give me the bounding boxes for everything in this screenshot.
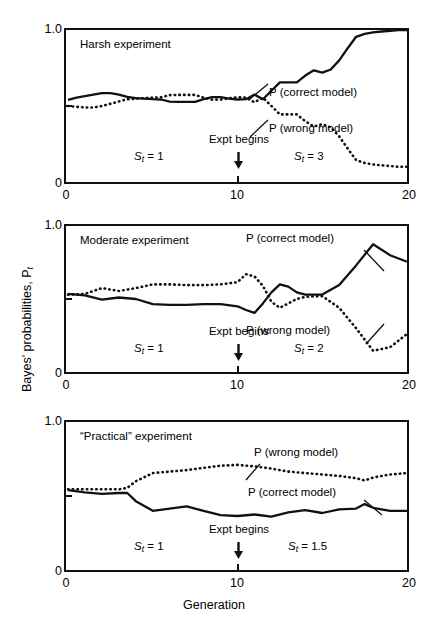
panel-practical-title: “Practical” experiment [80, 430, 192, 442]
panel-practical-regime-before-subscript: t [142, 544, 144, 554]
panel-harsh-y-tick-top: 1.0 [28, 22, 62, 36]
panel-moderate-leader-correct [362, 248, 390, 274]
panel-moderate-regime-after-value: = 2 [307, 342, 323, 354]
panel-practical-expt-begins-label: Expt begins [179, 523, 299, 535]
panel-harsh-regime-before-symbol: S [134, 150, 142, 162]
panel-moderate-legend-correct: P (correct model) [246, 232, 334, 244]
panel-moderate-leader-wrong [364, 322, 390, 348]
panel-moderate-regime-before: St = 1 [134, 342, 164, 356]
panel-practical-y-tick-top: 1.0 [28, 414, 62, 428]
panel-moderate-x-tick-20: 20 [394, 378, 424, 392]
x-axis-title: Generation [0, 598, 428, 612]
panel-moderate-regime-after-subscript: t [302, 346, 304, 356]
panel-moderate-expt-begins-label: Expt begins [179, 325, 299, 337]
panel-practical-legend-wrong: P (wrong model) [254, 446, 338, 458]
panel-harsh-regime-before: St = 1 [134, 150, 164, 164]
panel-practical-series-correct [68, 490, 407, 517]
y-axis-title-subscript: t [25, 267, 35, 269]
panel-harsh-x-tick-10: 10 [222, 188, 252, 202]
panel-practical-leader-correct [362, 498, 388, 520]
panel-moderate-series-correct [68, 244, 407, 313]
panel-harsh-regime-after-symbol: S [294, 150, 302, 162]
panel-harsh-x-tick-20: 20 [394, 188, 424, 202]
panel-moderate-legend-correct-label: P (correct model) [246, 232, 334, 244]
panel-harsh-leader-correct [246, 82, 272, 102]
panel-harsh-x-tick-0: 0 [51, 188, 81, 202]
panel-practical-legend-correct: P (correct model) [248, 486, 336, 498]
panel-practical-regime-after: St = 1.5 [288, 540, 327, 554]
panel-practical-x-tick-20: 20 [394, 576, 424, 590]
panel-practical-plot-area: “Practical” experiment P (wrong model) P… [64, 420, 409, 572]
panel-moderate-y-tick-top: 1.0 [28, 218, 62, 232]
panel-practical-x-tick-0: 0 [51, 576, 81, 590]
panel-moderate-regime-after-symbol: S [294, 342, 302, 354]
panel-harsh-regime-after-subscript: t [302, 154, 304, 164]
panel-practical-regime-before-value: = 1 [147, 540, 163, 552]
panel-moderate-regime-before-symbol: S [134, 342, 142, 354]
panel-moderate-regime-after: St = 2 [294, 342, 324, 356]
panel-practical-legend-wrong-label: P (wrong model) [254, 446, 338, 458]
panel-harsh-legend-correct-label: P (correct model) [269, 86, 357, 98]
panel-practical-regime-after-symbol: S [288, 540, 296, 552]
panel-moderate-regime-before-subscript: t [142, 346, 144, 356]
panel-harsh-regime-before-subscript: t [142, 154, 144, 164]
panel-practical-expt-begins-arrow [233, 542, 244, 559]
panel-harsh-expt-begins-label: Expt begins [179, 133, 299, 145]
panel-harsh-legend-correct: P (correct model) [269, 86, 357, 98]
panel-practical-regime-after-subscript: t [296, 544, 298, 554]
panel-practical-regime-before-symbol: S [134, 540, 142, 552]
panel-practical-x-tick-10: 10 [222, 576, 252, 590]
panel-practical-regime-before: St = 1 [134, 540, 164, 554]
panel-moderate-expt-begins-arrow [233, 344, 244, 361]
panel-moderate-plot-area: Moderate experiment P (correct model) P … [64, 224, 409, 374]
panel-moderate-x-tick-10: 10 [222, 378, 252, 392]
panel-practical-series-wrong [68, 465, 407, 489]
panel-moderate-x-tick-0: 0 [51, 378, 81, 392]
panel-harsh-expt-begins-arrow [233, 152, 244, 169]
panel-practical-legend-correct-label: P (correct model) [248, 486, 336, 498]
panel-harsh-regime-after-value: = 3 [307, 150, 323, 162]
panel-moderate-series-wrong [68, 274, 407, 351]
panel-moderate-regime-before-value: = 1 [147, 342, 163, 354]
panel-harsh-title: Harsh experiment [80, 38, 171, 50]
panel-moderate-title: Moderate experiment [80, 234, 189, 246]
panel-practical-leader-wrong [242, 462, 264, 484]
panel-harsh-regime-before-value: = 1 [147, 150, 163, 162]
figure-three-panel-bayes-probabilities: Bayes' probabilities, Pt 1.0 0 Harsh exp… [0, 0, 428, 639]
panel-practical-regime-after-value: = 1.5 [301, 540, 327, 552]
panel-harsh-plot-area: Harsh experiment P (correct model) P (wr… [64, 28, 409, 184]
panel-harsh-regime-after: St = 3 [294, 150, 324, 164]
